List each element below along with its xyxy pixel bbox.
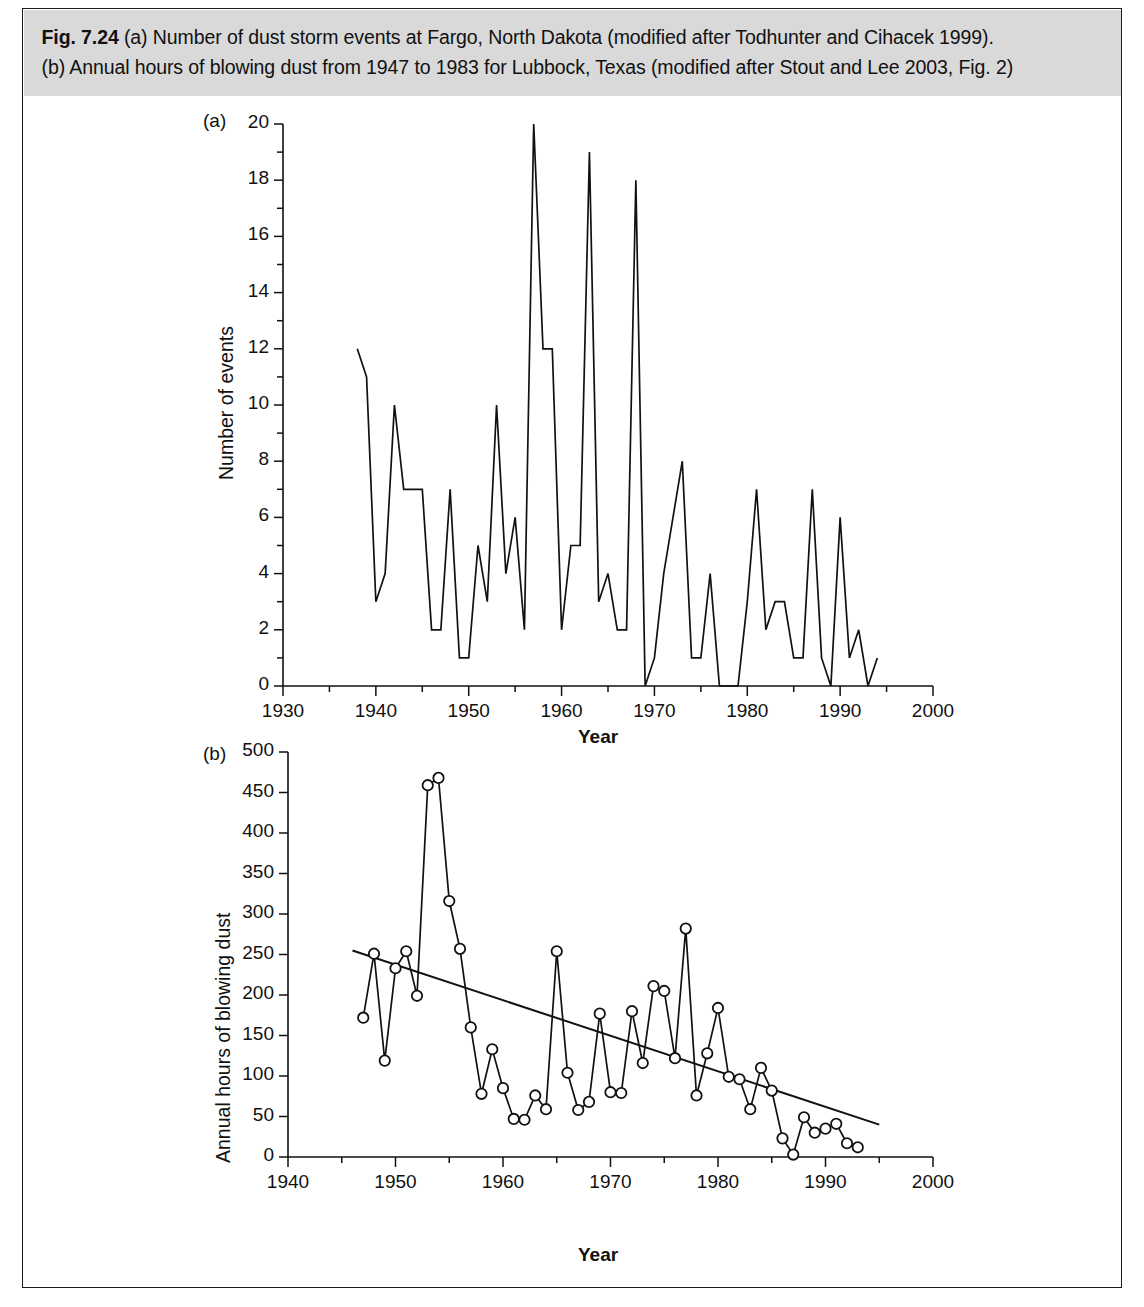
data-point-marker (842, 1138, 852, 1148)
y-ticklabel: 100 (230, 1063, 274, 1085)
data-point-marker (648, 981, 658, 991)
data-point-marker (487, 1044, 497, 1054)
panel-b-plot (0, 735, 1144, 1295)
y-ticklabel: 450 (230, 780, 274, 802)
x-ticklabel: 1960 (476, 1171, 530, 1193)
data-point-marker (702, 1048, 712, 1058)
y-ticklabel: 20 (235, 111, 269, 133)
x-ticklabel: 1990 (813, 700, 867, 722)
data-point-marker (745, 1104, 755, 1114)
x-ticklabel: 1980 (720, 700, 774, 722)
data-point-marker (444, 896, 454, 906)
data-point-marker (358, 1012, 368, 1022)
data-point-marker (573, 1105, 583, 1115)
x-ticklabel: 2000 (906, 700, 960, 722)
panel-b: (b) Annual hours of blowing dust Year 05… (0, 735, 1144, 1295)
data-point-marker (767, 1085, 777, 1095)
data-point-marker (681, 923, 691, 933)
y-ticklabel: 500 (230, 739, 274, 761)
x-ticklabel: 2000 (906, 1171, 960, 1193)
data-point-marker (562, 1068, 572, 1078)
y-ticklabel: 0 (235, 673, 269, 695)
data-point-marker (627, 1006, 637, 1016)
data-point-marker (724, 1072, 734, 1082)
y-ticklabel: 10 (235, 392, 269, 414)
y-ticklabel: 400 (230, 820, 274, 842)
data-point-marker (831, 1119, 841, 1129)
data-point-marker (820, 1123, 830, 1133)
data-point-marker (541, 1104, 551, 1114)
y-ticklabel: 16 (235, 223, 269, 245)
y-ticklabel: 4 (235, 561, 269, 583)
y-ticklabel: 12 (235, 336, 269, 358)
data-point-marker (691, 1090, 701, 1100)
y-ticklabel: 6 (235, 504, 269, 526)
data-point-marker (713, 1003, 723, 1013)
x-ticklabel: 1940 (349, 700, 403, 722)
x-ticklabel: 1950 (369, 1171, 423, 1193)
data-point-marker (659, 986, 669, 996)
data-point-marker (509, 1114, 519, 1124)
figure-container: Fig. 7.24 (a) Number of dust storm event… (0, 0, 1144, 1307)
data-point-marker (390, 963, 400, 973)
y-ticklabel: 50 (230, 1104, 274, 1126)
y-ticklabel: 14 (235, 280, 269, 302)
data-point-marker (756, 1063, 766, 1073)
data-point-marker (552, 946, 562, 956)
panel-a-plot (0, 0, 1144, 760)
panel-b-xlabel: Year (578, 1244, 618, 1266)
panel-a: (a) Number of events Year 02468101214161… (0, 0, 1144, 760)
data-point-marker (777, 1133, 787, 1143)
data-point-marker (466, 1022, 476, 1032)
y-ticklabel: 200 (230, 982, 274, 1004)
data-point-marker (810, 1128, 820, 1138)
data-point-marker (605, 1087, 615, 1097)
y-ticklabel: 150 (230, 1023, 274, 1045)
data-point-marker (412, 991, 422, 1001)
data-point-marker (476, 1089, 486, 1099)
data-point-marker (734, 1074, 744, 1084)
data-point-marker (853, 1142, 863, 1152)
x-ticklabel: 1940 (261, 1171, 315, 1193)
data-point-marker (799, 1112, 809, 1122)
data-point-marker (670, 1053, 680, 1063)
x-ticklabel: 1990 (799, 1171, 853, 1193)
data-point-marker (638, 1058, 648, 1068)
data-point-marker (401, 946, 411, 956)
data-point-marker (616, 1088, 626, 1098)
x-ticklabel: 1970 (627, 700, 681, 722)
y-ticklabel: 250 (230, 942, 274, 964)
x-ticklabel: 1950 (442, 700, 496, 722)
data-point-marker (369, 948, 379, 958)
x-ticklabel: 1960 (535, 700, 589, 722)
y-ticklabel: 350 (230, 861, 274, 883)
data-point-marker (455, 944, 465, 954)
trend-line (353, 950, 880, 1124)
data-point-marker (595, 1008, 605, 1018)
data-point-marker (433, 773, 443, 783)
y-ticklabel: 8 (235, 448, 269, 470)
y-ticklabel: 2 (235, 617, 269, 639)
panel-b-tag: (b) (203, 743, 226, 765)
data-point-marker (380, 1055, 390, 1065)
data-point-marker (498, 1083, 508, 1093)
x-ticklabel: 1930 (256, 700, 310, 722)
y-ticklabel: 18 (235, 167, 269, 189)
x-ticklabel: 1970 (584, 1171, 638, 1193)
x-ticklabel: 1980 (691, 1171, 745, 1193)
panel-a-tag: (a) (203, 110, 226, 132)
data-point-marker (423, 780, 433, 790)
y-ticklabel: 300 (230, 901, 274, 923)
data-point-marker (584, 1097, 594, 1107)
data-point-marker (788, 1149, 798, 1159)
data-point-marker (530, 1090, 540, 1100)
y-ticklabel: 0 (230, 1144, 274, 1166)
data-point-marker (519, 1115, 529, 1125)
data-series-line (357, 124, 877, 686)
